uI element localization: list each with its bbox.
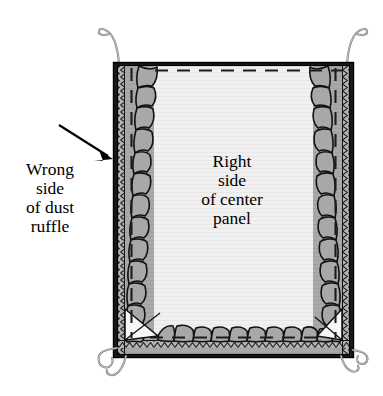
dust-ruffle-diagram: Wrong side of dust ruffle Right side of … xyxy=(0,0,383,396)
label-center-line3: of center xyxy=(201,189,263,209)
label-left-line3: of dust xyxy=(26,197,74,217)
figure-canvas: Wrong side of dust ruffle Right side of … xyxy=(0,0,383,396)
wrong-side-of-dust-ruffle-label: Wrong side of dust ruffle xyxy=(26,159,74,236)
label-left-line2: side xyxy=(36,178,64,198)
label-center-line1: Right xyxy=(213,151,252,171)
label-center-line2: side xyxy=(218,170,246,190)
label-center-line4: panel xyxy=(213,208,251,228)
label-left-line1: Wrong xyxy=(26,159,74,179)
label-left-line4: ruffle xyxy=(31,216,70,236)
